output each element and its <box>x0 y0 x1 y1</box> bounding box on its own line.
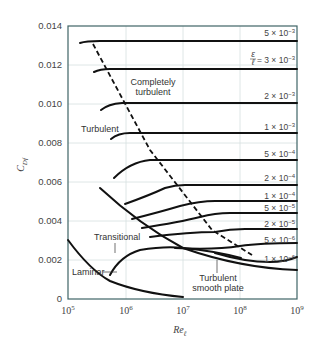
relative-roughness-label: ε ℓ = 3 × 10−3 <box>250 49 296 67</box>
x-tick: 108 <box>233 304 247 316</box>
x-axis-title: Reℓ <box>172 324 187 338</box>
y-tick: 0 <box>57 293 62 304</box>
label-5e-4: 5 × 10−4 <box>264 149 295 159</box>
curve-5e-3 <box>80 41 297 43</box>
plot-frame <box>68 26 297 299</box>
y-tick: 0.006 <box>38 176 62 187</box>
label-2e-4: 2 × 10−4 <box>264 173 295 183</box>
completely-turbulent-label-2: turbulent <box>135 87 171 97</box>
label-5e-3: 5 × 10−3 <box>264 28 295 38</box>
x-tick: 109 <box>290 304 304 316</box>
y-tick: 0.014 <box>38 20 62 31</box>
x-tick: 105 <box>61 304 75 316</box>
svg-text:= 3 × 10−3: = 3 × 10−3 <box>257 55 296 65</box>
curve-3e-3 <box>94 69 297 72</box>
roughness-curves <box>68 41 297 297</box>
gridlines <box>68 26 297 299</box>
y-tick: 0.010 <box>38 98 62 109</box>
completely-turbulent-label: Completely <box>130 77 176 87</box>
y-axis-ticks: 0 0.002 0.004 0.006 0.008 0.010 0.012 0.… <box>38 20 62 304</box>
turbulent-label: Turbulent <box>81 124 119 134</box>
transitional-label: Transitional <box>94 232 140 242</box>
x-axis-ticks: 105 106 107 108 109 <box>61 304 304 316</box>
svg-text:ℓ: ℓ <box>251 57 255 67</box>
x-tick: 107 <box>176 304 190 316</box>
label-5e-5: 5 × 10−5 <box>264 203 295 213</box>
drag-coefficient-chart: 0 0.002 0.004 0.006 0.008 0.010 0.012 0.… <box>0 0 319 348</box>
y-tick: 0.008 <box>38 137 62 148</box>
x-tick: 106 <box>119 304 133 316</box>
label-1e-3: 1 × 10−3 <box>264 122 295 132</box>
label-1e-4: 1 × 10−4 <box>264 191 295 201</box>
label-1e-6: 1 × 10−6 <box>264 254 295 264</box>
laminar-label: Laminar <box>72 267 105 277</box>
y-tick: 0.002 <box>38 254 62 265</box>
curve-1e-3 <box>111 133 297 139</box>
curve-transitional <box>110 247 241 275</box>
y-tick: 0.012 <box>38 59 62 70</box>
turbulent-smooth-label: Turbulent <box>199 273 237 283</box>
y-axis-title: CDf <box>15 157 29 172</box>
label-2e-3: 2 × 10−3 <box>264 91 295 101</box>
turbulent-smooth-label-2: smooth plate <box>192 283 244 293</box>
label-2e-5: 2 × 10−5 <box>264 219 295 229</box>
y-tick: 0.004 <box>38 215 62 226</box>
